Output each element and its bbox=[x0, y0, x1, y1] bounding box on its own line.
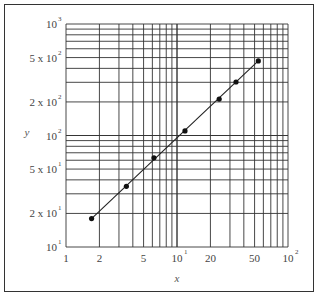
data-point bbox=[217, 97, 222, 102]
svg-text:5 x 10: 5 x 10 bbox=[30, 52, 58, 64]
x-tick: 101 bbox=[172, 248, 189, 264]
svg-text:2: 2 bbox=[58, 93, 62, 101]
data-point bbox=[124, 184, 129, 189]
svg-text:10: 10 bbox=[283, 252, 295, 264]
svg-text:2: 2 bbox=[58, 49, 62, 57]
x-tick: 102 bbox=[283, 248, 300, 264]
svg-text:3: 3 bbox=[58, 15, 62, 23]
data-point bbox=[89, 216, 94, 221]
x-tick: 1 bbox=[63, 252, 69, 264]
data-point bbox=[233, 79, 238, 84]
x-tick-labels: 1251012050102 bbox=[63, 248, 299, 264]
svg-text:1: 1 bbox=[58, 204, 62, 212]
y-tick: 5 x 101 bbox=[30, 160, 63, 175]
x-tick: 2 bbox=[97, 252, 103, 264]
y-tick-labels: 1012 x 1015 x 1011022 x 1025 x 102103 bbox=[30, 15, 63, 253]
svg-text:5: 5 bbox=[141, 252, 147, 264]
data-series bbox=[89, 58, 261, 221]
y-axis-label: y bbox=[24, 126, 30, 138]
svg-text:10: 10 bbox=[46, 130, 58, 142]
svg-text:2 x 10: 2 x 10 bbox=[30, 207, 58, 219]
svg-text:1: 1 bbox=[63, 252, 69, 264]
data-point bbox=[151, 155, 156, 160]
data-point bbox=[256, 58, 261, 63]
x-tick: 50 bbox=[249, 252, 261, 264]
x-tick: 5 bbox=[141, 252, 147, 264]
grid-lines bbox=[66, 24, 288, 247]
svg-text:10: 10 bbox=[46, 18, 58, 30]
svg-text:1: 1 bbox=[58, 238, 62, 246]
fit-line bbox=[92, 61, 259, 219]
svg-text:10: 10 bbox=[46, 241, 58, 253]
y-tick: 5 x 102 bbox=[30, 49, 63, 64]
svg-text:50: 50 bbox=[249, 252, 261, 264]
svg-text:5 x 10: 5 x 10 bbox=[30, 163, 58, 175]
svg-text:1: 1 bbox=[58, 160, 62, 168]
svg-text:2: 2 bbox=[58, 127, 62, 135]
x-axis-label: x bbox=[174, 272, 180, 284]
y-tick: 103 bbox=[46, 15, 62, 30]
y-tick: 101 bbox=[46, 238, 62, 253]
x-tick: 20 bbox=[205, 252, 217, 264]
y-tick: 2 x 101 bbox=[30, 204, 63, 219]
svg-text:2 x 10: 2 x 10 bbox=[30, 96, 58, 108]
svg-text:1: 1 bbox=[184, 248, 188, 256]
y-tick: 2 x 102 bbox=[30, 93, 63, 108]
svg-text:2: 2 bbox=[97, 252, 103, 264]
svg-text:20: 20 bbox=[205, 252, 217, 264]
svg-text:10: 10 bbox=[172, 252, 184, 264]
y-tick: 102 bbox=[46, 127, 62, 142]
svg-text:2: 2 bbox=[295, 248, 299, 256]
log-log-chart: 1251012050102 1012 x 1015 x 1011022 x 10… bbox=[0, 0, 320, 299]
data-point bbox=[182, 128, 187, 133]
